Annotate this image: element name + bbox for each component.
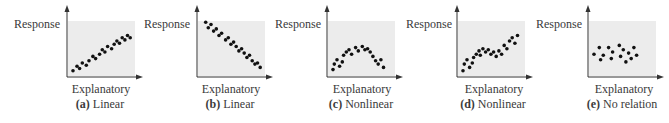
data-point	[361, 45, 365, 49]
data-point	[481, 47, 485, 51]
data-point	[87, 59, 91, 63]
data-point	[465, 58, 469, 62]
panel-caption: (d) Nonlinear	[443, 97, 543, 112]
data-point	[471, 61, 475, 65]
data-point	[357, 49, 361, 53]
data-point	[347, 48, 351, 52]
panel-b: Response Explanatory (b) Linear	[130, 0, 265, 123]
data-point	[463, 62, 467, 66]
scatter-plot-d	[390, 0, 530, 80]
data-point	[629, 57, 633, 61]
data-point	[338, 65, 342, 69]
data-point	[487, 48, 491, 52]
data-point	[220, 32, 224, 36]
data-point	[627, 51, 631, 55]
data-point	[350, 52, 354, 56]
panel-e: Response Explanatory (e) No relation	[530, 0, 665, 123]
data-point	[234, 45, 238, 49]
data-point	[492, 50, 496, 54]
data-point	[374, 59, 378, 63]
data-point	[632, 46, 636, 50]
data-point	[331, 68, 335, 72]
data-point	[500, 52, 504, 56]
data-point	[106, 45, 110, 49]
data-point	[94, 57, 98, 61]
data-point	[71, 69, 75, 73]
data-point	[516, 34, 520, 38]
data-point	[335, 58, 339, 62]
data-point	[366, 47, 370, 51]
panel-caption: (c) Nonlinear	[311, 97, 411, 112]
data-point	[502, 44, 506, 48]
data-point	[368, 50, 372, 54]
data-point	[112, 43, 116, 47]
data-point	[81, 61, 85, 65]
data-point	[215, 27, 219, 31]
data-point	[333, 62, 337, 66]
data-point	[103, 50, 107, 54]
data-point	[513, 41, 517, 45]
data-point	[240, 47, 244, 51]
data-point	[232, 40, 236, 44]
data-point	[371, 55, 375, 59]
data-point	[497, 49, 501, 53]
data-point	[123, 38, 127, 42]
data-point	[85, 63, 89, 67]
scatter-plot-c	[260, 0, 400, 80]
data-point	[207, 26, 211, 30]
data-point	[341, 60, 345, 64]
panel-a: Response Explanatory (a) Linear	[0, 0, 135, 123]
data-point	[379, 58, 383, 62]
panel-d: Response Explanatory (d) Nonlinear	[400, 0, 535, 123]
data-point	[110, 47, 114, 51]
data-point	[204, 21, 208, 25]
data-point	[479, 54, 483, 58]
data-point	[382, 66, 386, 70]
data-point	[494, 55, 498, 59]
scatter-plot-b	[130, 0, 270, 80]
x-axis-label: Explanatory	[317, 82, 407, 97]
data-point	[354, 46, 358, 50]
data-point	[624, 60, 628, 64]
panel-c: Response Explanatory (c) Nonlinear	[265, 0, 400, 123]
data-point	[256, 61, 260, 65]
data-point	[592, 52, 596, 56]
data-point	[342, 54, 346, 58]
data-point	[242, 51, 246, 55]
data-point	[508, 39, 512, 43]
data-point	[475, 52, 479, 56]
data-point	[598, 46, 602, 50]
data-point	[209, 23, 213, 27]
data-point	[602, 54, 606, 58]
data-point	[78, 67, 82, 71]
panel-caption: (e) No relation	[572, 97, 669, 112]
data-point	[98, 52, 102, 56]
data-point	[227, 36, 231, 40]
x-axis-label: Explanatory	[579, 82, 669, 97]
data-point	[477, 49, 481, 53]
x-axis-label: Explanatory	[449, 82, 539, 97]
data-point	[610, 57, 614, 61]
data-point	[472, 56, 476, 60]
data-point	[510, 36, 514, 40]
x-axis-label: Explanatory	[186, 82, 276, 97]
data-point	[611, 50, 615, 54]
data-point	[599, 58, 603, 62]
data-point	[250, 59, 254, 63]
data-point	[461, 69, 465, 73]
scatter-plot-e	[521, 0, 661, 80]
data-point	[618, 44, 622, 48]
data-point	[468, 66, 472, 70]
scatter-plot-a	[0, 0, 140, 80]
data-point	[635, 54, 639, 58]
data-point	[619, 55, 623, 59]
data-point	[376, 62, 380, 66]
data-point	[622, 48, 626, 52]
data-point	[505, 47, 509, 51]
data-point	[118, 41, 122, 45]
data-point	[607, 46, 611, 50]
data-point	[248, 54, 252, 58]
